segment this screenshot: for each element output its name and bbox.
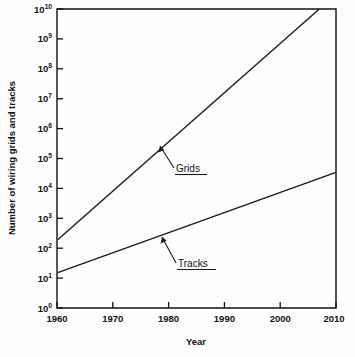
svg-text:107: 107 <box>38 92 53 104</box>
y-tick-exp: 3 <box>48 212 52 219</box>
y-tick-exp: 1 <box>48 272 52 279</box>
y-tick-exp: 9 <box>48 32 52 39</box>
y-tick-exp: 7 <box>48 92 52 99</box>
y-tick-base: 10 <box>38 33 49 44</box>
y-tick-exp: 6 <box>48 122 52 129</box>
x-tick-label: 1980 <box>158 313 179 324</box>
svg-text:109: 109 <box>38 32 53 44</box>
grids-annotation-label: Grids <box>176 163 200 174</box>
y-tick-base: 10 <box>34 4 45 15</box>
x-tick-label: 1960 <box>46 313 67 324</box>
y-tick-base: 10 <box>38 243 49 254</box>
y-tick-base: 10 <box>38 213 49 224</box>
y-axis-title: Number of wiring grids and tracks <box>6 81 17 235</box>
annotation-tracks: Tracks <box>161 237 216 270</box>
y-tick-base: 10 <box>38 123 49 134</box>
x-axis-title: Year <box>186 336 206 347</box>
svg-text:104: 104 <box>38 182 53 194</box>
y-tick-exp: 8 <box>48 62 52 69</box>
svg-text:108: 108 <box>38 62 53 74</box>
chart-svg: 100 101 102 103 104 105 106 107 108 109 … <box>0 0 355 357</box>
y-tick-base: 10 <box>38 183 49 194</box>
x-axis-ticks <box>57 302 336 308</box>
x-tick-label: 1970 <box>102 313 123 324</box>
y-tick-exp: 4 <box>48 182 52 189</box>
y-tick-base: 10 <box>38 273 49 284</box>
svg-text:1010: 1010 <box>34 3 52 15</box>
y-tick-base: 10 <box>38 303 49 314</box>
x-tick-label: 2010 <box>323 313 344 324</box>
y-tick-exp: 10 <box>45 3 53 10</box>
y-tick-exp: 5 <box>48 152 52 159</box>
series-grids <box>58 9 320 240</box>
x-tick-label: 1990 <box>214 313 235 324</box>
chart-figure: 100 101 102 103 104 105 106 107 108 109 … <box>0 0 355 357</box>
x-axis-tick-labels: 1960 1970 1980 1990 2000 2010 <box>46 313 344 324</box>
y-axis-ticks <box>57 9 63 308</box>
svg-text:101: 101 <box>38 272 53 284</box>
svg-text:100: 100 <box>38 302 53 314</box>
y-tick-exp: 2 <box>48 242 52 249</box>
annotation-grids: Grids <box>158 146 207 175</box>
y-tick-base: 10 <box>38 153 49 164</box>
x-tick-label: 2000 <box>270 313 291 324</box>
svg-text:105: 105 <box>38 152 53 164</box>
svg-text:102: 102 <box>38 242 53 254</box>
svg-text:103: 103 <box>38 212 53 224</box>
y-tick-base: 10 <box>38 93 49 104</box>
tracks-annotation-label: Tracks <box>178 258 208 269</box>
svg-text:106: 106 <box>38 122 53 134</box>
y-axis-tick-labels: 100 101 102 103 104 105 106 107 108 109 … <box>34 3 52 314</box>
y-tick-exp: 0 <box>48 302 52 309</box>
y-tick-base: 10 <box>38 63 49 74</box>
